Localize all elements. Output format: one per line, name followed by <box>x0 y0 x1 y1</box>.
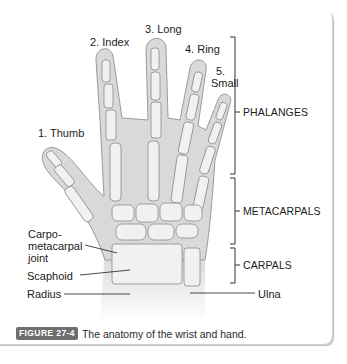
label-ulna: Ulna <box>258 288 281 300</box>
label-cmc-3: joint <box>28 252 48 264</box>
label-scaphoid: Scaphoid <box>27 270 73 282</box>
figure-caption: FIGURE 27-4 The anatomy of the wrist and… <box>16 327 247 340</box>
label-metacarpals: METACARPALS <box>243 205 321 217</box>
figure-badge: FIGURE 27-4 <box>16 327 78 340</box>
hand-illustration <box>0 0 347 364</box>
label-radius: Radius <box>27 288 61 300</box>
label-thumb: 1. Thumb <box>38 127 84 139</box>
label-index: 2. Index <box>90 36 129 48</box>
label-small-number: 5. <box>216 65 225 77</box>
label-ring: 4. Ring <box>185 43 220 55</box>
label-phalanges: PHALANGES <box>243 106 308 118</box>
caption-text: The anatomy of the wrist and hand. <box>82 328 247 340</box>
label-cmc-2: metacarpal <box>28 240 82 252</box>
label-carpals: CARPALS <box>243 259 292 271</box>
label-long: 3. Long <box>145 23 182 35</box>
label-small: Small <box>211 77 239 89</box>
label-cmc-1: Carpo- <box>28 228 62 240</box>
